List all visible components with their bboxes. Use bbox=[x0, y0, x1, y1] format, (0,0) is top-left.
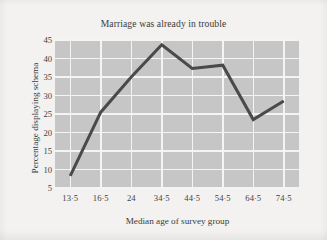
line-series bbox=[55, 40, 299, 188]
y-tick-label: 10 bbox=[12, 165, 52, 174]
x-axis-title: Median age of survey group bbox=[55, 216, 300, 226]
y-tick-label: 15 bbox=[12, 147, 52, 156]
y-tick-label: 20 bbox=[12, 128, 52, 137]
y-tick-label: 5 bbox=[12, 184, 52, 193]
x-axis-ticks: 13·516·52434·544·554·564·574·5 bbox=[55, 194, 299, 208]
y-tick-label: 30 bbox=[12, 91, 52, 100]
plot-area bbox=[55, 40, 299, 188]
x-tick-label: 74·5 bbox=[264, 194, 304, 203]
y-tick-label: 25 bbox=[12, 110, 52, 119]
series-polyline bbox=[70, 45, 284, 176]
y-tick-label: 45 bbox=[12, 36, 52, 45]
chart-figure: Marriage was already in trouble Percenta… bbox=[0, 0, 327, 240]
y-tick-label: 35 bbox=[12, 73, 52, 82]
y-axis-ticks: 45403530252015105 bbox=[10, 40, 52, 188]
y-tick-label: 40 bbox=[12, 54, 52, 63]
chart-title: Marriage was already in trouble bbox=[0, 18, 327, 29]
